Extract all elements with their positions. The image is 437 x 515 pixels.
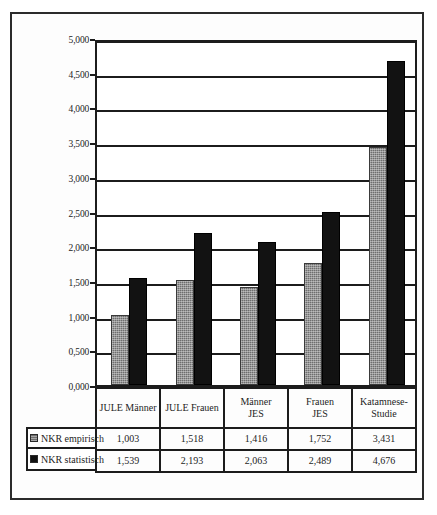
gridline — [97, 215, 415, 217]
y-axis-tick-mark — [90, 282, 95, 284]
y-axis-tick-label: 2,500 — [69, 209, 89, 219]
bar-nkr-empirisch — [369, 147, 387, 385]
gridline — [97, 319, 415, 321]
figure-frame: 5,0004,5004,0003,5003,0002,5002,0001,500… — [10, 12, 424, 500]
y-axis-tick-label: 4,000 — [69, 104, 89, 114]
bar-nkr-empirisch — [176, 280, 194, 385]
table-row: 1,0031,5181,4161,7523,431 — [96, 428, 416, 450]
data-value-cell: 1,416 — [224, 428, 288, 450]
data-table: JULE MännerJULE FrauenMännerJESFrauenJES… — [95, 387, 417, 473]
gridline — [97, 41, 415, 43]
gridline — [97, 284, 415, 286]
y-axis-tick-mark — [90, 213, 95, 215]
gridline — [97, 249, 415, 251]
data-value-cell: 1,752 — [288, 428, 352, 450]
data-value-cell: 1,003 — [96, 428, 160, 450]
y-axis-tick-label: 4,500 — [69, 70, 89, 80]
bar-nkr-empirisch — [240, 287, 258, 385]
legend-swatch-empirisch-icon — [30, 434, 38, 442]
y-axis-tick-label: 1,500 — [69, 278, 89, 288]
gridline — [97, 145, 415, 147]
data-value-cell: 1,539 — [96, 450, 160, 472]
y-axis-tick-label: 3,500 — [69, 139, 89, 149]
y-axis-tick-label: 5,000 — [69, 35, 89, 45]
gridline — [97, 180, 415, 182]
table-row-categories: JULE MännerJULE FrauenMännerJESFrauenJES… — [96, 388, 416, 428]
data-value-cell: 2,193 — [160, 450, 224, 472]
bars-layer — [97, 42, 415, 385]
bar-nkr-statistisch — [129, 278, 147, 385]
category-header-cell: JULE Frauen — [160, 388, 224, 428]
y-axis-tick-label: 0,500 — [69, 347, 89, 357]
gridline — [97, 353, 415, 355]
y-axis-tick-mark — [90, 143, 95, 145]
category-header-cell: FrauenJES — [288, 388, 352, 428]
legend-swatch-statistisch-icon — [30, 455, 38, 463]
plot-box — [95, 40, 417, 387]
gridline — [97, 76, 415, 78]
bar-nkr-empirisch — [111, 315, 129, 385]
category-header-cell: Katamnese-Studie — [352, 388, 416, 428]
y-axis-tick-mark — [90, 178, 95, 180]
legend-item-statistisch: NKR statistisch — [26, 449, 97, 471]
chart-plot-area: 5,0004,5004,0003,5003,0002,5002,0001,500… — [95, 40, 417, 387]
y-axis-tick-label: 3,000 — [69, 174, 89, 184]
bar-nkr-empirisch — [304, 263, 322, 385]
data-table-wrap: JULE MännerJULE FrauenMännerJESFrauenJES… — [95, 387, 417, 473]
bar-nkr-statistisch — [322, 212, 340, 385]
data-value-cell: 1,518 — [160, 428, 224, 450]
category-header-cell: MännerJES — [224, 388, 288, 428]
y-axis-tick-mark — [90, 74, 95, 76]
y-axis-tick-label: 0,000 — [69, 382, 89, 392]
bar-nkr-statistisch — [387, 61, 405, 386]
y-axis-tick-mark — [90, 317, 95, 319]
bar-nkr-statistisch — [258, 242, 276, 385]
y-axis-tick-mark — [90, 39, 95, 41]
data-value-cell: 4,676 — [352, 450, 416, 472]
data-value-cell: 2,489 — [288, 450, 352, 472]
y-axis-tick-mark — [90, 108, 95, 110]
y-axis-tick-mark — [90, 247, 95, 249]
table-row: 1,5392,1932,0632,4894,676 — [96, 450, 416, 472]
data-value-cell: 2,063 — [224, 450, 288, 472]
y-axis-tick-label: 2,000 — [69, 243, 89, 253]
category-header-cell: JULE Männer — [96, 388, 160, 428]
y-axis-tick-mark — [90, 351, 95, 353]
data-value-cell: 3,431 — [352, 428, 416, 450]
legend-item-empirisch: NKR empirisch — [26, 427, 97, 449]
y-axis-tick-label: 1,000 — [69, 313, 89, 323]
gridline — [97, 110, 415, 112]
bar-nkr-statistisch — [194, 233, 212, 385]
legend-row-labels: NKR empirischNKR statistisch — [26, 427, 97, 471]
